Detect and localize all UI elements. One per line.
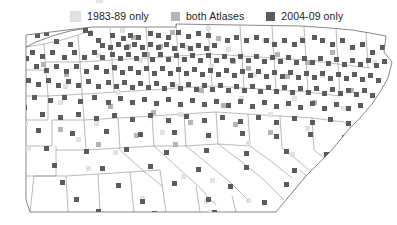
atlas-block bbox=[170, 30, 175, 35]
atlas-block bbox=[264, 38, 269, 43]
atlas-block bbox=[246, 198, 251, 203]
atlas-block bbox=[148, 164, 153, 169]
atlas-block bbox=[238, 119, 243, 124]
atlas-block bbox=[40, 112, 45, 117]
atlas-block bbox=[46, 78, 51, 83]
atlas-block bbox=[154, 81, 159, 86]
atlas-block bbox=[268, 130, 273, 135]
atlas-block bbox=[176, 67, 181, 72]
atlas-block bbox=[346, 106, 351, 111]
atlas-block bbox=[214, 99, 219, 104]
atlas-block bbox=[206, 26, 211, 31]
atlas-block bbox=[196, 31, 201, 36]
atlas-block bbox=[358, 103, 363, 108]
atlas-block bbox=[106, 100, 111, 105]
atlas-block bbox=[234, 35, 239, 40]
atlas-block bbox=[340, 166, 345, 171]
atlas-block bbox=[218, 83, 223, 88]
legend-entry-1983-89-only: 1983-89 only bbox=[70, 11, 149, 22]
atlas-block bbox=[298, 86, 303, 91]
atlas-block bbox=[358, 150, 363, 155]
atlas-block bbox=[202, 83, 207, 88]
atlas-block bbox=[190, 53, 195, 58]
atlas-block bbox=[234, 84, 239, 89]
atlas-block bbox=[318, 198, 323, 203]
atlas-block bbox=[275, 52, 280, 57]
legend-swatch-icon bbox=[70, 11, 81, 22]
atlas-block bbox=[216, 72, 221, 77]
atlas-block bbox=[36, 128, 41, 133]
atlas-block bbox=[198, 58, 203, 63]
atlas-block bbox=[346, 88, 351, 93]
atlas-block bbox=[210, 87, 215, 92]
atlas-block bbox=[270, 55, 275, 60]
atlas-block bbox=[84, 149, 89, 154]
atlas-block bbox=[214, 58, 219, 63]
atlas-block bbox=[326, 61, 331, 66]
atlas-block bbox=[34, 64, 39, 69]
atlas-block bbox=[116, 90, 121, 95]
atlas-block bbox=[256, 115, 261, 120]
atlas-block bbox=[194, 87, 199, 92]
atlas-block bbox=[305, 126, 310, 131]
atlas-block bbox=[268, 112, 273, 117]
atlas-block bbox=[160, 66, 165, 71]
atlas-block bbox=[334, 57, 339, 62]
atlas-block bbox=[286, 101, 291, 106]
atlas-block bbox=[96, 142, 101, 147]
legend-swatch-icon bbox=[171, 12, 180, 21]
atlas-block bbox=[114, 84, 119, 89]
atlas-block bbox=[248, 73, 253, 78]
atlas-block bbox=[340, 38, 345, 43]
atlas-block bbox=[292, 96, 297, 101]
atlas-block bbox=[58, 115, 63, 120]
pennsylvania-map bbox=[0, 0, 397, 225]
atlas-block bbox=[330, 42, 335, 47]
atlas-block bbox=[370, 107, 375, 112]
atlas-block bbox=[272, 42, 277, 47]
atlas-block bbox=[376, 78, 381, 83]
legend-label: both Atlases bbox=[186, 11, 244, 22]
atlas-block bbox=[186, 34, 191, 39]
atlas-block bbox=[328, 76, 333, 81]
atlas-block bbox=[92, 50, 97, 55]
atlas-block bbox=[122, 80, 127, 85]
atlas-block bbox=[368, 73, 373, 78]
atlas-block bbox=[374, 63, 379, 68]
atlas-block bbox=[112, 113, 117, 118]
atlas-block bbox=[96, 84, 101, 89]
atlas-block bbox=[178, 102, 183, 107]
atlas-block bbox=[246, 58, 251, 63]
atlas-block bbox=[92, 95, 97, 100]
distribution-map-figure: 1983-89 only both Atlases 2004-09 only bbox=[0, 0, 397, 225]
atlas-block bbox=[240, 69, 245, 74]
atlas-block bbox=[138, 132, 143, 137]
atlas-block bbox=[146, 85, 151, 90]
atlas-block bbox=[216, 36, 221, 41]
atlas-block bbox=[264, 74, 269, 79]
atlas-block bbox=[142, 52, 147, 57]
atlas-block bbox=[110, 33, 115, 38]
atlas-block bbox=[322, 91, 327, 96]
atlas-block bbox=[64, 69, 69, 74]
atlas-block bbox=[342, 62, 347, 67]
atlas-block bbox=[58, 127, 63, 132]
atlas-block bbox=[221, 103, 226, 108]
atlas-block bbox=[208, 68, 213, 73]
atlas-block bbox=[130, 100, 135, 105]
atlas-block bbox=[128, 33, 133, 38]
atlas-block bbox=[138, 81, 143, 86]
atlas-block bbox=[41, 62, 46, 67]
atlas-block bbox=[94, 65, 99, 70]
atlas-block bbox=[354, 92, 359, 97]
atlas-block bbox=[226, 47, 231, 52]
atlas-block bbox=[76, 112, 81, 117]
atlas-block bbox=[76, 137, 81, 142]
atlas-block bbox=[244, 165, 249, 170]
atlas-block bbox=[360, 77, 365, 82]
atlas-block bbox=[148, 31, 153, 36]
atlas-block bbox=[340, 190, 345, 195]
atlas-block bbox=[188, 120, 193, 125]
atlas-block bbox=[70, 131, 75, 136]
atlas-block bbox=[272, 212, 277, 217]
